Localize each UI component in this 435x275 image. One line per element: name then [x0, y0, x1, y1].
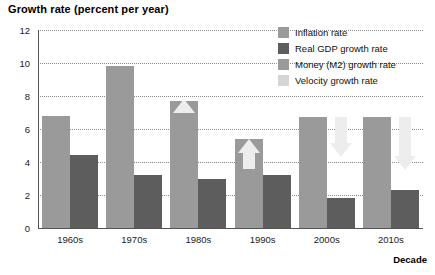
bar-real-gdp-growth: [198, 179, 226, 229]
x-axis-tick-label: 2000s: [314, 234, 340, 245]
bar-money-growth: [170, 101, 198, 228]
velocity-down-arrow-icon: [391, 117, 419, 170]
growth-rate-bar-chart: Growth rate (percent per year) 024681012…: [0, 0, 435, 275]
y-axis-tick-label: 6: [4, 124, 30, 135]
bar-real-gdp-growth: [391, 190, 419, 228]
legend-item[interactable]: Velocity growth rate: [278, 73, 396, 88]
legend-item-label: Money (M2) growth rate: [295, 60, 396, 70]
y-axis-tick-label: 8: [4, 91, 30, 102]
legend-swatch-icon: [278, 43, 289, 54]
velocity-up-arrow-icon: [170, 99, 198, 112]
velocity-up-arrow-icon: [235, 139, 263, 169]
x-axis-tick-label: 2010s: [378, 234, 404, 245]
legend-swatch-icon: [278, 59, 289, 70]
bar-group: [106, 30, 162, 228]
bar-real-gdp-growth: [263, 175, 291, 228]
legend-item-label: Real GDP growth rate: [295, 44, 388, 54]
bar-money-growth: [106, 66, 134, 228]
y-axis-line: [38, 30, 39, 229]
legend-item[interactable]: Real GDP growth rate: [278, 41, 396, 56]
y-axis-tick-label: 10: [4, 58, 30, 69]
velocity-down-arrow-icon: [327, 117, 355, 157]
bar-real-gdp-growth: [327, 198, 355, 228]
bar-money-growth: [42, 116, 70, 228]
y-axis-tick-label: 0: [4, 223, 30, 234]
legend-swatch-icon: [278, 27, 289, 38]
chart-title: Growth rate (percent per year): [8, 3, 169, 15]
x-axis-tick-label: 1960s: [57, 234, 83, 245]
bar-money-growth: [363, 117, 391, 228]
x-axis-tick-label: 1980s: [185, 234, 211, 245]
x-axis-label: Decade: [393, 254, 427, 265]
chart-legend: Inflation rateReal GDP growth rateMoney …: [278, 25, 396, 89]
x-axis-line: [38, 228, 423, 229]
x-axis-tick-label: 1990s: [250, 234, 276, 245]
y-axis-tick-label: 12: [4, 25, 30, 36]
bar-money-growth: [299, 117, 327, 228]
legend-item[interactable]: Money (M2) growth rate: [278, 57, 396, 72]
legend-item[interactable]: Inflation rate: [278, 25, 396, 40]
legend-swatch-icon: [278, 75, 289, 86]
bar-group: [170, 30, 226, 228]
legend-item-label: Inflation rate: [295, 28, 347, 38]
bar-group: [42, 30, 98, 228]
bar-real-gdp-growth: [70, 155, 98, 228]
legend-item-label: Velocity growth rate: [295, 76, 378, 86]
y-axis-tick-label: 4: [4, 157, 30, 168]
y-axis-tick-label: 2: [4, 190, 30, 201]
bar-real-gdp-growth: [134, 175, 162, 228]
x-axis-tick-label: 1970s: [121, 234, 147, 245]
